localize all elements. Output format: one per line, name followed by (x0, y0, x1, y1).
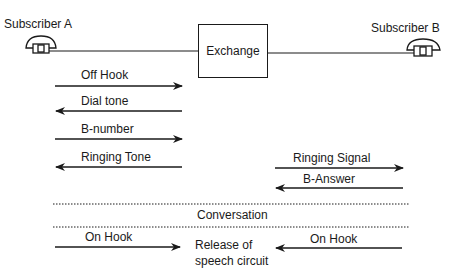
message-label-off-hook: Off Hook (81, 68, 128, 82)
exchange-label: Exchange (199, 44, 267, 58)
message-label-ringing-tone: Ringing Tone (81, 150, 151, 164)
phase-label-conversation: Conversation (197, 208, 268, 222)
message-label-dial-tone: Dial tone (81, 94, 128, 108)
release-label-on-hook-a: On Hook (85, 230, 132, 244)
subscriber-a-label: Subscriber A (4, 17, 72, 31)
release-center-line2: speech circuit (195, 254, 268, 268)
message-label-b-answer: B-Answer (303, 172, 355, 186)
exchange-box: Exchange (198, 24, 268, 78)
message-label-b-number: B-number (81, 122, 134, 136)
release-center-line1: Release of (195, 238, 252, 252)
subscriber-b-label: Subscriber B (371, 21, 440, 35)
release-label-on-hook-b: On Hook (310, 232, 357, 246)
message-label-ringing-signal: Ringing Signal (293, 151, 370, 165)
